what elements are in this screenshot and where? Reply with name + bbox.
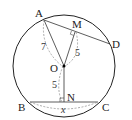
measure-om: 5 [75, 47, 80, 58]
measure-bc: x [60, 104, 66, 115]
label-d: D [112, 38, 120, 50]
label-b: B [18, 101, 25, 113]
label-o: O [50, 62, 58, 74]
geometry-diagram: A M D O N B C 7 5 5 x [0, 0, 132, 120]
measure-on: 5 [52, 79, 57, 90]
measure-ao: 7 [41, 41, 46, 52]
dashed-arc-ao [43, 20, 62, 66]
label-c: C [102, 101, 109, 113]
right-angle-m [70, 31, 73, 36]
label-n: N [67, 91, 75, 103]
label-a: A [35, 7, 43, 19]
segment-om [64, 32, 75, 66]
center-dot [63, 65, 66, 68]
dashed-arc-on [59, 66, 63, 102]
label-m: M [72, 18, 82, 30]
segment-oa [44, 20, 64, 66]
